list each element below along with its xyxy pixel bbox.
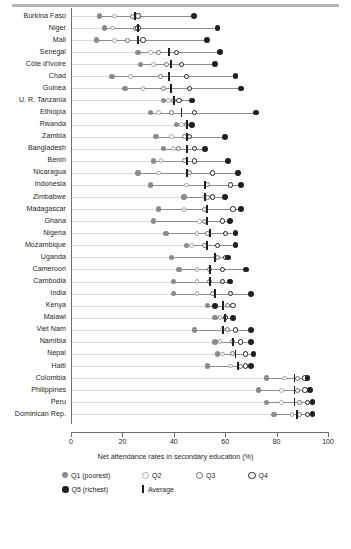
- data-point-q5: [204, 37, 210, 43]
- data-point-average: [222, 301, 224, 309]
- row-connector: [179, 269, 246, 270]
- data-point-average: [181, 108, 183, 116]
- row-gridline: [72, 185, 151, 186]
- legend-item[interactable]: Q3: [196, 471, 215, 479]
- category-label: Nicaragua: [0, 167, 66, 178]
- data-point-q1: [264, 400, 269, 405]
- data-point-q1: [192, 327, 197, 332]
- data-point-q5: [248, 327, 254, 333]
- data-point-average: [186, 133, 188, 141]
- data-point-q5: [189, 98, 195, 104]
- data-point-q5: [238, 182, 244, 188]
- data-point-average: [224, 314, 226, 322]
- data-point-q4: [184, 74, 189, 79]
- row-gridline: [72, 173, 138, 174]
- row-connector: [153, 161, 228, 162]
- row-connector: [158, 209, 240, 210]
- category-label: Uganda: [0, 252, 66, 263]
- category-label: India: [0, 288, 66, 299]
- data-point-q3: [125, 38, 130, 43]
- legend-label: Average: [148, 486, 174, 493]
- row-gridline: [72, 88, 125, 89]
- dot-plot-chart: Burkina FasoNigerMaliSenegalCôte d'Ivoir…: [0, 0, 351, 549]
- legend-marker-q2: [142, 472, 149, 479]
- legend-item[interactable]: Q5 (richest): [62, 485, 108, 493]
- data-point-q4: [215, 243, 220, 248]
- legend-item[interactable]: Q2: [142, 471, 161, 479]
- legend-item[interactable]: Average: [142, 485, 174, 493]
- data-point-q5: [310, 399, 316, 405]
- legend-row: Q1 (poorest)Q2Q3Q4: [0, 470, 351, 484]
- legend-item[interactable]: Q4: [248, 471, 268, 479]
- data-point-q1: [264, 375, 269, 380]
- category-label: Nepal: [0, 348, 66, 359]
- row-gridline: [72, 414, 274, 415]
- row-gridline: [72, 149, 164, 150]
- category-label: Madagascar: [0, 204, 66, 215]
- data-point-q2: [156, 171, 161, 176]
- data-point-q5: [307, 387, 313, 393]
- data-point-q2: [112, 38, 117, 43]
- data-point-average: [186, 120, 188, 128]
- data-point-q1: [169, 255, 174, 260]
- data-point-average: [170, 60, 172, 68]
- category-label: Ghana: [0, 216, 66, 227]
- data-point-q5: [251, 351, 257, 357]
- x-axis-tick: [71, 433, 72, 437]
- category-label: Ethiopia: [0, 107, 66, 118]
- data-point-q4: [243, 351, 248, 356]
- data-point-q1: [148, 182, 153, 187]
- data-point-average: [209, 277, 211, 285]
- x-axis-tick-label: 0: [56, 438, 86, 445]
- data-point-q1: [181, 194, 186, 199]
- data-point-q5: [233, 230, 239, 236]
- data-point-q4: [230, 303, 235, 308]
- data-point-q1: [151, 158, 156, 163]
- data-point-average: [186, 169, 188, 177]
- data-point-average: [296, 410, 298, 418]
- data-point-average: [214, 289, 216, 297]
- legend-item[interactable]: Q1 (poorest): [62, 471, 110, 479]
- data-point-q2: [195, 279, 200, 284]
- data-point-q1: [122, 86, 127, 91]
- data-point-q3: [161, 86, 166, 91]
- data-point-q5: [202, 146, 208, 152]
- row-gridline: [72, 197, 184, 198]
- data-point-average: [209, 229, 211, 237]
- data-point-average: [168, 48, 170, 56]
- legend-label: Q4: [259, 472, 268, 479]
- data-point-q1: [102, 25, 107, 30]
- data-point-q5: [230, 315, 236, 321]
- data-point-q5: [189, 122, 195, 128]
- data-point-average: [232, 338, 234, 346]
- row-gridline: [72, 378, 266, 379]
- data-point-q5: [310, 411, 316, 417]
- data-point-q5: [212, 303, 218, 309]
- data-point-q5: [243, 267, 249, 273]
- data-point-q4: [220, 267, 225, 272]
- category-label: Malawi: [0, 312, 66, 323]
- data-point-q5: [222, 194, 228, 200]
- row-gridline: [72, 52, 138, 53]
- category-label: Zimbabwe: [0, 192, 66, 203]
- x-axis-tick: [174, 433, 175, 437]
- category-label: Namibia: [0, 336, 66, 347]
- data-point-q5: [305, 375, 311, 381]
- data-point-q2: [195, 231, 200, 236]
- category-label: Philippines: [0, 385, 66, 396]
- data-point-q5: [191, 13, 197, 19]
- data-point-q1: [271, 412, 276, 417]
- data-point-q2: [141, 86, 146, 91]
- data-point-q4: [238, 339, 243, 344]
- x-axis-title: Net attendance rates in secondary educat…: [0, 452, 351, 461]
- row-gridline: [72, 209, 158, 210]
- data-point-q4: [192, 146, 197, 151]
- legend-marker-q3: [196, 472, 203, 479]
- data-point-q2: [279, 388, 284, 393]
- category-label: Burkina Faso: [0, 11, 66, 22]
- row-gridline: [72, 100, 164, 101]
- data-point-q1: [212, 339, 217, 344]
- data-point-q1: [176, 267, 181, 272]
- data-point-q4: [179, 62, 184, 67]
- data-point-average: [134, 12, 136, 20]
